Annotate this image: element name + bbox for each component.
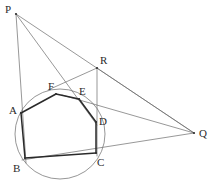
vertex-dot-d xyxy=(95,121,97,123)
side-EF xyxy=(56,94,79,99)
line-R-Q xyxy=(97,68,194,133)
point-label-d: D xyxy=(99,116,107,127)
construction-lines-group xyxy=(16,14,194,163)
side-FA xyxy=(21,94,56,113)
point-label-f: F xyxy=(48,81,54,92)
line-Q-E xyxy=(62,95,194,133)
point-label-e: E xyxy=(79,86,86,97)
point-label-c: C xyxy=(97,157,104,168)
vertex-dot-p xyxy=(15,13,17,15)
vertex-dot-a xyxy=(20,112,22,114)
line-P-B xyxy=(16,14,26,163)
geometry-canvas xyxy=(0,0,217,192)
vertex-dot-e xyxy=(78,98,80,100)
vertex-dot-b xyxy=(24,157,26,159)
hexagon-group xyxy=(21,94,96,158)
point-label-a: A xyxy=(9,105,17,116)
point-label-b: B xyxy=(13,163,20,174)
point-label-q: Q xyxy=(199,128,207,139)
vertex-dot-f xyxy=(55,93,57,95)
circumcircle xyxy=(15,89,105,179)
vertex-dot-c xyxy=(95,152,97,154)
geometry-figure: PRQABCDEF xyxy=(0,0,217,192)
vertex-dot-r xyxy=(96,67,98,69)
point-label-r: R xyxy=(100,55,107,66)
vertex-dot-q xyxy=(193,132,195,134)
line-R-F xyxy=(48,68,97,90)
point-label-p: P xyxy=(5,4,11,15)
